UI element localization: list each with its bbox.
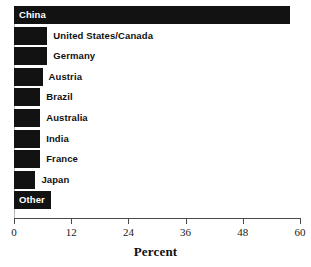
plot-area: ChinaUnited States/CanadaGermanyAustriaB… — [14, 6, 300, 217]
bar-label: Austria — [49, 68, 82, 86]
bar-row: Australia — [14, 109, 300, 127]
bar-label: China — [19, 6, 46, 24]
tick-label: 0 — [0, 226, 34, 238]
bar-row: United States/Canada — [14, 27, 300, 45]
bar-label: France — [46, 150, 78, 168]
bar-row: Austria — [14, 68, 300, 86]
bar-row: Brazil — [14, 88, 300, 106]
bar-label: Other — [19, 191, 45, 209]
bar — [14, 6, 290, 24]
bar-label: Germany — [53, 47, 95, 65]
bar-label: Brazil — [46, 88, 72, 106]
bar-label: United States/Canada — [53, 27, 153, 45]
tick-label: 48 — [223, 226, 263, 238]
tick-mark — [128, 218, 129, 224]
tick-mark — [186, 218, 187, 224]
tick-label: 24 — [108, 226, 148, 238]
bar-row: China — [14, 6, 300, 24]
x-axis-title: Percent — [0, 244, 311, 260]
bar-label: Australia — [46, 109, 88, 127]
bar — [14, 130, 40, 148]
bar — [14, 47, 47, 65]
tick-mark — [71, 218, 72, 224]
bar-row: Germany — [14, 47, 300, 65]
bar — [14, 88, 40, 106]
tick-mark — [243, 218, 244, 224]
bar-label: Japan — [41, 171, 69, 189]
tick-label: 36 — [166, 226, 206, 238]
tick-mark — [14, 218, 15, 224]
bar-row: France — [14, 150, 300, 168]
bar-chart: ChinaUnited States/CanadaGermanyAustriaB… — [0, 0, 311, 267]
bar — [14, 68, 43, 86]
bar-row: Other — [14, 191, 300, 209]
tick-label: 60 — [280, 226, 311, 238]
bar-row: India — [14, 130, 300, 148]
bar-row: Japan — [14, 171, 300, 189]
value-axis-line — [14, 218, 300, 219]
bar — [14, 150, 40, 168]
bar-label: India — [46, 130, 69, 148]
tick-label: 12 — [51, 226, 91, 238]
bar — [14, 109, 40, 127]
tick-mark — [300, 218, 301, 224]
bar — [14, 27, 47, 45]
bar — [14, 171, 35, 189]
